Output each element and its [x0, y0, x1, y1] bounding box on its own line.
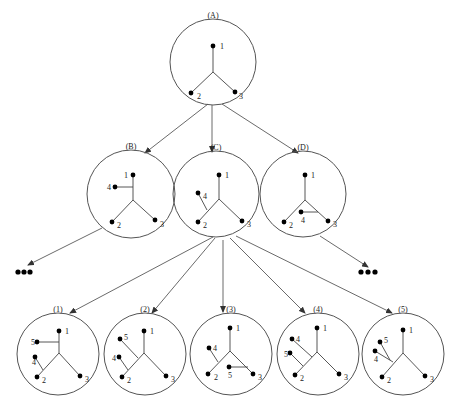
- ellipsis-right: [358, 269, 377, 274]
- leaf-node-1: [57, 329, 62, 334]
- arrow-c-to-4: [230, 238, 305, 313]
- leaf-label: 3: [160, 220, 164, 229]
- leaf-node-4: [113, 185, 118, 190]
- tree-c: (C)1423: [173, 143, 259, 237]
- leaf-node-2: [206, 372, 211, 377]
- leaf-label: 1: [323, 324, 327, 333]
- leaf-label: 5: [124, 333, 128, 342]
- leaf-label: 3: [85, 375, 89, 384]
- tree-3: (3)14253: [190, 305, 272, 395]
- leaf-label: 3: [239, 92, 243, 101]
- leaf-node-2: [282, 220, 287, 225]
- ellipsis-dot: [358, 269, 363, 274]
- leaf-label: 3: [344, 373, 348, 382]
- leaf-label: 2: [289, 221, 293, 230]
- tree-b: (B)1423: [87, 142, 175, 238]
- leaf-node-3: [423, 374, 428, 379]
- leaf-node-5: [227, 365, 232, 370]
- tree-d: (D)1423: [260, 143, 346, 237]
- tree-label: (1): [53, 305, 63, 314]
- leaf-label: 4: [296, 335, 300, 344]
- leaf-label: 3: [258, 373, 262, 382]
- tree-1: (1)15423: [17, 305, 99, 395]
- leaf-label: 1: [409, 326, 413, 335]
- tree-edge: [230, 351, 253, 374]
- ellipsis-dot: [365, 269, 370, 274]
- leaf-label: 2: [214, 373, 218, 382]
- tree-label: (A): [207, 11, 218, 20]
- leaf-node-1: [131, 173, 136, 178]
- tree-label: (B): [126, 142, 137, 151]
- leaf-node-3: [240, 219, 245, 224]
- leaf-node-4: [373, 349, 378, 354]
- leaf-node-3: [326, 219, 331, 224]
- ellipsis-left: [15, 269, 32, 274]
- leaf-node-3: [251, 372, 256, 377]
- tree-label: (2): [140, 305, 150, 314]
- leaf-label: 1: [150, 327, 154, 336]
- tree-edge: [290, 353, 303, 366]
- ellipsis-dot: [21, 269, 26, 274]
- leaf-label: 1: [225, 171, 229, 180]
- leaf-label: 2: [300, 374, 304, 383]
- tree-edge: [122, 353, 144, 377]
- leaf-label: 2: [197, 92, 201, 101]
- tree-edge: [59, 353, 80, 376]
- tree-edge: [295, 352, 317, 375]
- leaf-node-5: [378, 340, 383, 345]
- leaf-node-2: [110, 220, 115, 225]
- leaf-label: 4: [203, 192, 207, 201]
- leaf-label: 5: [228, 371, 232, 380]
- tree-edge: [213, 72, 235, 92]
- arrow-c-to-2: [152, 238, 215, 313]
- tree-label: (D): [297, 143, 308, 152]
- leaf-label: 5: [384, 336, 388, 345]
- leaf-node-2: [35, 375, 40, 380]
- tree-a: (A)123: [170, 11, 256, 105]
- ellipsis-dot: [372, 269, 377, 274]
- leaf-label: 3: [430, 375, 434, 384]
- tree-edge: [403, 353, 425, 376]
- leaf-label: 2: [117, 221, 121, 230]
- leaf-node-4: [117, 355, 122, 360]
- leaf-node-4: [207, 346, 212, 351]
- leaf-label: 3: [247, 220, 251, 229]
- leaf-label: 4: [112, 354, 116, 363]
- tree-edge: [317, 352, 339, 374]
- tree-4: (4)14523: [277, 305, 359, 395]
- tree-label: (3): [226, 305, 236, 314]
- leaf-node-1: [211, 44, 216, 49]
- arrow-c-to-1: [70, 237, 213, 313]
- arrow-d-to-ellipsis-right: [320, 236, 368, 267]
- leaf-label: 4: [107, 183, 111, 192]
- tree-edge: [198, 199, 219, 222]
- tree-edge: [112, 200, 133, 222]
- ellipsis-dot: [15, 269, 20, 274]
- tree-edge: [144, 353, 166, 376]
- leaf-node-5: [288, 351, 293, 356]
- leaf-node-1: [303, 173, 308, 178]
- tree-circle: [190, 313, 272, 395]
- ellipsis-dot: [27, 269, 32, 274]
- leaf-node-5: [35, 340, 40, 345]
- arrow-a-to-d: [222, 104, 298, 153]
- leaf-node-4: [196, 191, 201, 196]
- leaf-label: 1: [236, 324, 240, 333]
- leaf-label: 4: [213, 344, 217, 353]
- leaf-label: 1: [65, 327, 69, 336]
- tree-2: (2)15423: [104, 305, 186, 395]
- leaf-label: 2: [127, 376, 131, 385]
- leaf-node-5: [118, 337, 123, 342]
- arrow-a-to-b: [145, 104, 208, 153]
- tree-edge: [191, 72, 213, 93]
- tree-5: (5)15423: [362, 305, 444, 395]
- leaf-label: 2: [387, 376, 391, 385]
- leaf-node-1: [401, 328, 406, 333]
- tree-edge: [382, 353, 403, 377]
- leaf-label: 5: [284, 350, 288, 359]
- leaf-node-2: [189, 91, 194, 96]
- leaf-node-3: [153, 218, 158, 223]
- leaf-node-1: [315, 326, 320, 331]
- tree-edge: [120, 339, 138, 358]
- leaf-node-3: [164, 374, 169, 379]
